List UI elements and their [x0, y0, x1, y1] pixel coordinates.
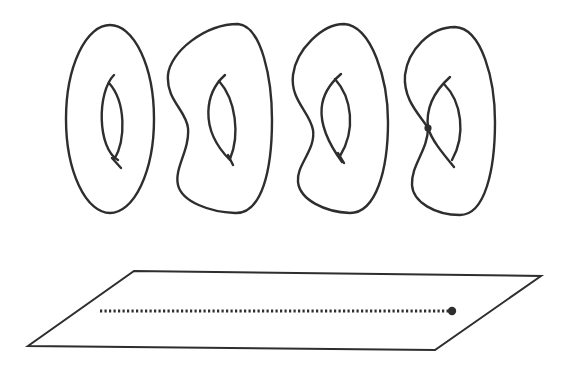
- torus-4: [405, 27, 495, 215]
- singular-point: [424, 124, 431, 131]
- torus-4-hole-right: [444, 84, 460, 160]
- diagram-canvas: [0, 0, 577, 372]
- torus-1: [66, 25, 154, 213]
- torus-2-hole-right: [219, 81, 235, 165]
- torus-1-hole-left: [102, 75, 118, 160]
- torus-3: [293, 24, 388, 213]
- torus-2-hole-left: [208, 75, 230, 160]
- torus-4-outer: [405, 27, 495, 215]
- torus-3-outer: [293, 24, 388, 213]
- torus-3-hole-right: [335, 79, 350, 163]
- base-plane: [28, 271, 541, 350]
- diagram-svg: [0, 0, 577, 372]
- torus-2: [168, 24, 272, 213]
- torus-2-outer: [168, 24, 272, 213]
- torus-1-outer: [66, 25, 154, 213]
- torus-3-hole-left: [321, 74, 342, 162]
- endpoint-marker: [448, 307, 456, 315]
